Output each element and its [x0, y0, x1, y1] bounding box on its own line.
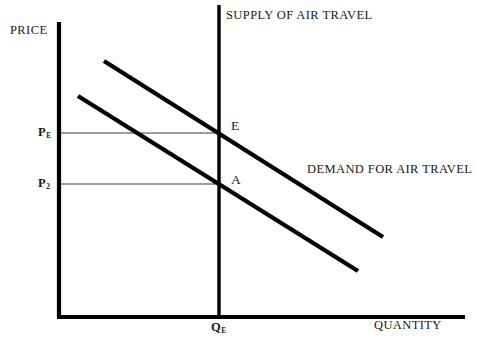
demand-curve-label: DEMAND FOR AIR TRAVEL — [307, 163, 472, 176]
y-tick-label-p2: P2 — [38, 177, 49, 190]
y-tick-p2-base: P — [38, 176, 46, 190]
y-axis-title-price: PRICE — [10, 24, 47, 37]
x-tick-qe-subscript: E — [221, 326, 226, 335]
x-axis-title-quantity: QUANTITY — [374, 319, 442, 332]
y-tick-p2-subscript: 2 — [46, 182, 50, 191]
y-tick-pe-subscript: E — [46, 131, 51, 140]
y-tick-pe-base: P — [38, 125, 46, 139]
supply-demand-diagram: PRICE QUANTITY SUPPLY OF AIR TRAVEL DEMA… — [0, 0, 477, 349]
demand-curve-upper — [104, 61, 383, 237]
y-tick-label-pe: PE — [38, 126, 51, 139]
point-label-e: E — [231, 119, 239, 133]
point-label-a: A — [231, 173, 241, 187]
supply-curve-label: SUPPLY OF AIR TRAVEL — [226, 9, 372, 22]
x-tick-qe-base: Q — [211, 320, 221, 334]
x-tick-label-qe: QE — [211, 321, 226, 334]
